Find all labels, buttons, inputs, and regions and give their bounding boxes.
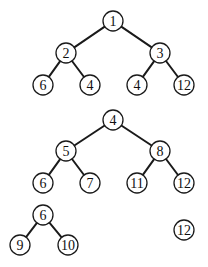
node-label: 11 [130,176,143,191]
tree-node: 1 [103,11,123,31]
node-label: 4 [110,113,117,128]
tree-node: 12 [174,75,194,95]
tree-edge [74,126,104,146]
node-label: 4 [134,78,141,93]
tree-3: 6910 [10,205,78,255]
node-label: 3 [157,46,164,61]
node-label: 6 [40,78,47,93]
tree-node: 11 [127,173,147,193]
tree-edge [74,27,104,48]
tree-edge [121,126,151,146]
tree-node: 10 [58,235,78,255]
nodes-layer: 12364412458671112691012 [10,11,194,255]
node-label: 5 [63,144,70,159]
node-label: 4 [87,78,94,93]
tree-edge [143,61,154,77]
tree-node: 12 [174,220,194,240]
tree-node: 12 [174,173,194,193]
tree-edge [49,223,61,238]
tree-node: 7 [80,173,100,193]
node-label: 1 [110,14,117,29]
node-label: 12 [177,176,191,191]
tree-1: 12364412 [33,11,194,95]
tree-4: 12 [174,220,194,240]
tree-2: 458671112 [33,110,194,193]
tree-edge [26,223,37,237]
tree-node: 2 [56,43,76,63]
node-label: 9 [17,238,24,253]
tree-node: 6 [33,173,53,193]
tree-node: 3 [150,43,170,63]
node-label: 6 [40,208,47,223]
node-label: 10 [61,238,75,253]
tree-edge [72,61,84,77]
node-label: 6 [40,176,47,191]
tree-node: 4 [127,75,147,95]
tree-edge [72,159,84,175]
node-label: 8 [157,144,164,159]
tree-node: 4 [80,75,100,95]
heap-forest-diagram: 12364412458671112691012 [0,0,208,267]
tree-node: 6 [33,205,53,225]
node-label: 7 [87,176,94,191]
tree-node: 8 [150,141,170,161]
tree-edge [121,27,151,48]
tree-node: 5 [56,141,76,161]
tree-node: 9 [10,235,30,255]
node-label: 2 [63,46,70,61]
tree-node: 4 [103,110,123,130]
tree-edge [166,159,178,175]
tree-edge [143,159,154,175]
tree-edge [49,61,60,77]
tree-node: 6 [33,75,53,95]
tree-edge [166,61,178,77]
node-label: 12 [177,78,191,93]
node-label: 12 [177,223,191,238]
tree-edge [49,159,60,175]
